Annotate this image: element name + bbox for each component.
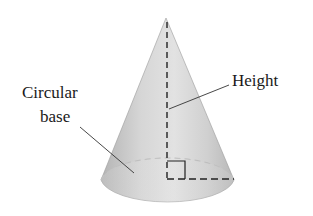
height-label: Height <box>232 71 279 90</box>
circular-base-label-line1: Circular <box>22 83 78 102</box>
cone-diagram: Height Circular base <box>0 0 313 216</box>
circular-base-label-line2: base <box>40 107 70 126</box>
